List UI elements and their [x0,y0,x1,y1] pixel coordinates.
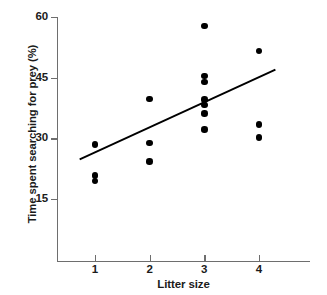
x-axis-tick-label: 2 [140,264,160,276]
data-point [146,140,152,146]
data-point [146,96,152,102]
x-axis-tick-label: 4 [249,264,269,276]
y-axis-tick [51,138,58,139]
scatter-plot-figure: 60 45 30 15 1 2 3 4 Time spent searching… [0,0,327,295]
data-point [201,102,207,108]
x-axis-tick-label: 3 [194,264,214,276]
regression-trend-line [0,0,327,295]
plot-area: 60 45 30 15 1 2 3 4 [0,0,327,295]
x-axis-tick [204,255,205,262]
data-point [256,121,262,127]
x-axis-tick [95,255,96,262]
y-axis-tick [51,17,58,18]
data-point [201,126,207,132]
data-point [256,134,262,140]
data-point [256,48,262,54]
x-axis-tick-label: 1 [85,264,105,276]
data-point [146,158,152,164]
trend-line-segment [80,70,276,160]
y-axis-tick [51,78,58,79]
x-axis-tick [150,255,151,262]
x-axis-tick [259,255,260,262]
data-point [201,23,207,29]
data-point [92,178,98,184]
data-point [92,141,98,147]
x-axis-title: Litter size [57,278,310,290]
data-point [201,79,207,85]
y-axis-tick [51,199,58,200]
data-point [201,110,207,116]
y-axis-title: Time spent searching for prey (%) [26,19,38,249]
